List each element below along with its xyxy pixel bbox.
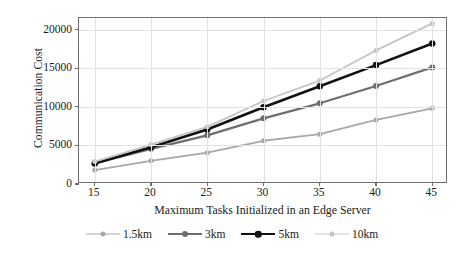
legend-item-3km[interactable]: 3km: [168, 228, 225, 240]
x-axis-tick-label: 25: [186, 186, 226, 198]
y-axis-tick-label: 0: [26, 177, 72, 189]
y-axis-tick-mark: [75, 145, 79, 146]
x-axis-tick-label: 20: [130, 186, 170, 198]
chart-legend: 1.5km3km5km10km: [0, 228, 464, 240]
legend-marker-dot: [255, 231, 262, 238]
y-axis-tick-mark: [75, 183, 79, 184]
chart-figure: Communication Cost 05000100001500020000 …: [0, 0, 464, 257]
x-axis-tick-label: 35: [299, 186, 339, 198]
gridline-vertical: [207, 18, 208, 182]
gridline-vertical: [151, 18, 152, 182]
gridline-vertical: [432, 18, 433, 182]
y-axis-tick-mark: [75, 106, 79, 107]
legend-item-5km[interactable]: 5km: [241, 228, 298, 240]
gridline-horizontal: [79, 68, 446, 69]
x-axis-title: Maximum Tasks Initialized in an Edge Ser…: [78, 203, 447, 218]
gridline-horizontal: [79, 145, 446, 146]
gridline-vertical: [376, 18, 377, 182]
legend-swatch-icon: [241, 228, 275, 240]
gridline-vertical: [95, 18, 96, 182]
legend-label: 5km: [278, 228, 298, 240]
y-axis-tick-labels: 05000100001500020000: [26, 0, 72, 257]
legend-swatch-icon: [168, 228, 202, 240]
legend-label: 1.5km: [123, 228, 152, 240]
y-axis-tick-mark: [75, 68, 79, 69]
y-axis-tick-label: 15000: [26, 61, 72, 73]
gridline-horizontal: [79, 30, 446, 31]
legend-item-1.5km[interactable]: 1.5km: [86, 228, 152, 240]
x-axis-tick-label: 45: [411, 186, 451, 198]
legend-marker-dot: [182, 231, 188, 237]
legend-marker-dot: [100, 232, 105, 237]
x-axis-tick-label: 30: [243, 186, 283, 198]
legend-label: 10km: [352, 228, 378, 240]
legend-swatch-icon: [86, 228, 120, 240]
y-axis-tick-label: 5000: [26, 138, 72, 150]
x-axis-tick-labels: 15202530354045: [78, 186, 447, 202]
plot-inner: [79, 18, 446, 182]
plot-area: [78, 17, 447, 183]
x-axis-tick-label: 40: [355, 186, 395, 198]
gridline-vertical: [320, 18, 321, 182]
y-axis-tick-label: 20000: [26, 23, 72, 35]
x-axis-tick-label: 15: [74, 186, 114, 198]
legend-swatch-icon: [315, 228, 349, 240]
legend-marker-dot: [329, 232, 334, 237]
y-axis-tick-mark: [75, 29, 79, 30]
legend-label: 3km: [205, 228, 225, 240]
legend-item-10km[interactable]: 10km: [315, 228, 378, 240]
gridline-vertical: [264, 18, 265, 182]
gridline-horizontal: [79, 107, 446, 108]
y-axis-tick-label: 10000: [26, 100, 72, 112]
